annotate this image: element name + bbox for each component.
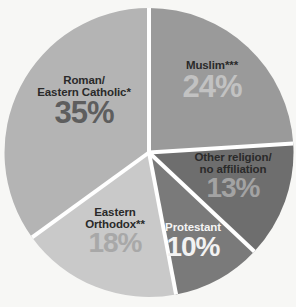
pie-chart-svg xyxy=(0,0,296,307)
pie-chart: Muslim*** 24% Roman/ Eastern Catholic* 3… xyxy=(0,0,296,307)
pie-slice-muslim[interactable] xyxy=(149,8,293,153)
